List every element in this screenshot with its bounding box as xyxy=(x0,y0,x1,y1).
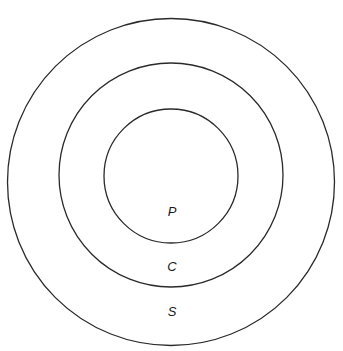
inner-circle-p xyxy=(104,109,238,243)
label-c: C xyxy=(167,259,177,274)
middle-circle-c xyxy=(59,63,283,287)
outer-circle-s xyxy=(8,19,335,346)
label-p: P xyxy=(168,204,177,219)
label-s: S xyxy=(168,304,177,319)
concentric-circles-diagram: P C S xyxy=(0,0,343,351)
